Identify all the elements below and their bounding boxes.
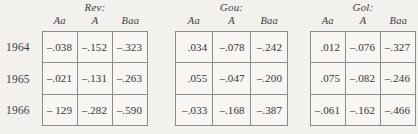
table-cell: –.323 (113, 32, 147, 62)
column-header: Baa (250, 15, 288, 26)
table-cell: –.168 (213, 95, 250, 125)
data-grid: –.038–.152–.323–.021–.131–.263– 129–.282… (42, 31, 148, 126)
table-cell: –.162 (346, 95, 381, 125)
table-group-title: Rev: (42, 1, 148, 13)
table-cell: –.047 (213, 63, 250, 93)
column-header-row: AaABaa (42, 15, 148, 26)
table-group-title: Gol: (310, 1, 416, 13)
column-header: A (213, 15, 251, 26)
column-header: Baa (381, 15, 416, 26)
table-cell: –.021 (43, 63, 78, 93)
table-cell: –.246 (381, 63, 415, 93)
table-cell: –.387 (251, 95, 287, 125)
table-cell: .012 (311, 32, 346, 62)
column-header: A (77, 15, 112, 26)
table-cell: –.242 (251, 32, 287, 62)
table-cell: –.082 (346, 63, 381, 93)
column-header-row: AaABaa (175, 15, 288, 26)
table-cell: – 129 (43, 95, 78, 125)
table-cell: –.131 (78, 63, 113, 93)
table-cell: –.076 (346, 32, 381, 62)
column-header: Aa (310, 15, 345, 26)
table-row: .055–.047–.200 (176, 63, 287, 94)
table-page: 196419651966 Rev:AaABaa–.038–.152–.323–.… (0, 0, 418, 134)
table-row: – 129–.282–.590 (43, 95, 147, 125)
row-label-1966: 1966 (0, 94, 40, 126)
table-cell: –.033 (176, 95, 213, 125)
column-header: A (345, 15, 380, 26)
table-cell: –.466 (381, 95, 415, 125)
table-cell: –.282 (78, 95, 113, 125)
table-row: .075–.082–.246 (311, 63, 415, 94)
table-cell: –.078 (213, 32, 250, 62)
column-header: Baa (113, 15, 148, 26)
data-grid: .034–.078–.242.055–.047–.200–.033–.168–.… (175, 31, 288, 126)
table-cell: .034 (176, 32, 213, 62)
table-row: –.033–.168–.387 (176, 95, 287, 125)
row-label-column: 196419651966 (0, 31, 40, 126)
data-grid: .012–.076–.327.075–.082–.246–.061–.162–.… (310, 31, 416, 126)
table-cell: –.038 (43, 32, 78, 62)
table-cell: –.590 (113, 95, 147, 125)
table-row: –.038–.152–.323 (43, 32, 147, 63)
table-row: –.061–.162–.466 (311, 95, 415, 125)
column-header: Aa (42, 15, 77, 26)
table-cell: –.152 (78, 32, 113, 62)
row-label-1965: 1965 (0, 63, 40, 95)
column-header: Aa (175, 15, 213, 26)
row-label-1964: 1964 (0, 31, 40, 63)
column-header-row: AaABaa (310, 15, 416, 26)
table-cell: .075 (311, 63, 346, 93)
table-cell: –.263 (113, 63, 147, 93)
table-cell: .055 (176, 63, 213, 93)
table-cell: –.061 (311, 95, 346, 125)
table-row: .012–.076–.327 (311, 32, 415, 63)
table-cell: –.200 (251, 63, 287, 93)
table-group-title: Gou: (175, 1, 288, 13)
table-row: –.021–.131–.263 (43, 63, 147, 94)
table-row: .034–.078–.242 (176, 32, 287, 63)
table-cell: –.327 (381, 32, 415, 62)
